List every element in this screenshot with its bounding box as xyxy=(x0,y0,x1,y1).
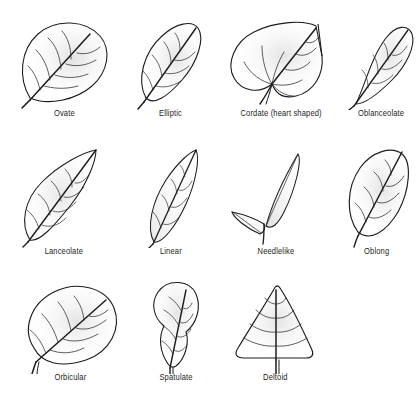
leaf-label-cordate: Cordate (heart shaped) xyxy=(240,110,321,118)
leaf-figure-deltoid: Deltoid xyxy=(224,284,326,382)
elliptic-drawing xyxy=(122,14,218,110)
leaf-label-lanceolate: Lanceolate xyxy=(45,248,83,256)
needlelike-drawing xyxy=(226,148,326,248)
leaf-figure-oblanceolate: Oblanceolate xyxy=(344,16,418,118)
linear-drawing xyxy=(128,148,214,248)
leaf-label-deltoid: Deltoid xyxy=(263,374,288,382)
ovate-drawing xyxy=(8,14,120,110)
leaf-figure-cordate: Cordate (heart shaped) xyxy=(222,12,340,118)
leaf-figure-needlelike: Needlelike xyxy=(226,148,326,256)
leaf-label-ovate: Ovate xyxy=(54,110,75,118)
deltoid-drawing xyxy=(224,284,326,374)
leaf-label-spatulate: Spatulate xyxy=(159,374,192,382)
lanceolate-drawing xyxy=(12,148,116,248)
leaf-figure-orbicular: Orbicular xyxy=(14,282,126,382)
leaf-label-needlelike: Needlelike xyxy=(258,248,295,256)
leaf-label-oblanceolate: Oblanceolate xyxy=(358,110,404,118)
leaf-figure-spatulate: Spatulate xyxy=(134,280,218,382)
leaf-label-elliptic: Elliptic xyxy=(158,110,181,118)
leaf-shapes-plate: Ovate Elliptic xyxy=(0,0,420,394)
orbicular-drawing xyxy=(14,282,126,374)
oblanceolate-drawing xyxy=(344,16,418,110)
leaf-figure-linear: Linear xyxy=(128,148,214,256)
leaf-figure-ovate: Ovate xyxy=(8,14,120,118)
leaf-figure-lanceolate: Lanceolate xyxy=(12,148,116,256)
leaf-label-oblong: Oblong xyxy=(364,248,389,256)
cordate-drawing xyxy=(222,12,340,110)
leaf-figure-oblong: Oblong xyxy=(336,144,418,256)
spatulate-drawing xyxy=(134,280,218,374)
leaf-figure-elliptic: Elliptic xyxy=(122,14,218,118)
oblong-drawing xyxy=(336,144,418,248)
leaf-label-orbicular: Orbicular xyxy=(54,374,86,382)
leaf-label-linear: Linear xyxy=(160,248,182,256)
